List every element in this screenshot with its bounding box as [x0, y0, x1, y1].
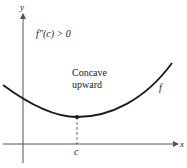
point-c	[75, 115, 79, 119]
concavity-diagram: y x f″(c) > 0 Concave upward f c	[0, 0, 187, 168]
condition-label: f″(c) > 0	[36, 28, 71, 40]
y-axis-label: y	[19, 2, 24, 12]
point-label: c	[74, 146, 79, 157]
curve-label: f	[159, 82, 163, 93]
annotation-line2: upward	[72, 79, 102, 90]
annotation-line1: Concave	[72, 67, 108, 78]
x-axis-label: x	[179, 139, 184, 149]
